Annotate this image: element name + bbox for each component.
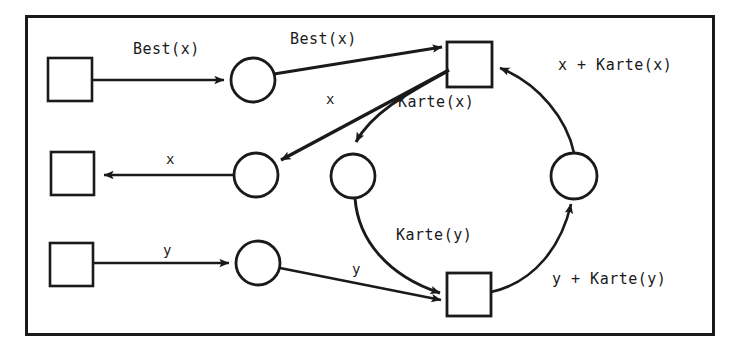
place-mid-left <box>234 153 278 197</box>
arc-label-y-in: y <box>163 243 172 257</box>
place-top-left <box>231 58 275 102</box>
transition-top-right <box>447 42 492 87</box>
arc-x-plus-karte-x <box>500 68 574 153</box>
transition-left-mid <box>51 152 94 195</box>
transition-left-bottom <box>50 243 93 286</box>
arc-label-y-mid: y <box>352 262 361 276</box>
arc-label-x-out: x <box>166 152 175 166</box>
place-bottom-left <box>236 241 280 285</box>
arc-label-karte-y: Karte(y) <box>396 228 472 243</box>
arc-label-x-top: x <box>326 92 335 106</box>
petri-net-figure: Best(x) Best(x) x Karte(x) x + Karte(x) … <box>0 0 732 357</box>
arc-label-karte-x: Karte(x) <box>398 95 474 110</box>
place-center <box>331 154 375 198</box>
transition-left-top <box>48 58 92 101</box>
place-right <box>551 153 597 199</box>
arc-label-y-plus-karte-y: y + Karte(y) <box>552 272 666 287</box>
arc-label-best-x-in: Best(x) <box>133 42 200 57</box>
arc-label-best-x-out: Best(x) <box>290 32 357 47</box>
arc-karte-y-to-transition <box>355 198 440 293</box>
arc-best-x-to-transition <box>274 47 442 74</box>
transition-bottom-right <box>447 273 491 316</box>
petri-net-graphics <box>0 0 732 357</box>
arc-label-x-plus-karte-x: x + Karte(x) <box>558 58 672 73</box>
